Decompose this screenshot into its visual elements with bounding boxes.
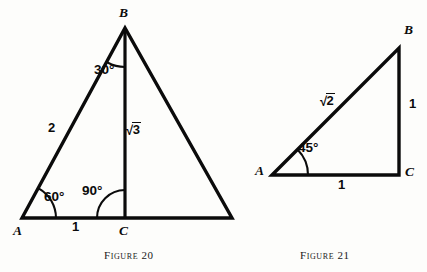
figure-20-angle-label-b: 30° [94,63,114,77]
figure-21-geometry [272,48,399,175]
figure-21-triangle-outline [272,48,399,175]
figure-20-vertex-label-c: C [119,224,128,238]
radical-radicand: 2 [326,93,335,107]
figure-20-caption: Figure 20 [104,249,154,261]
geometry-drawing-layer [0,0,427,272]
figure-20-angle-label-a: 60° [44,190,64,204]
figure-page: B A C 2 √3 1 30° 60° 90° Figure 20 B A C… [0,0,427,272]
figure-21-hypotenuse-label-sqrt2: √2 [320,94,335,108]
figure-21-leg-label-bc: 1 [409,97,416,110]
figure-21-angle-label-a: 45° [298,141,318,155]
figure-21-vertex-label-b: B [404,23,413,37]
figure-20-vertex-label-a: A [13,224,22,238]
figure-20-base-label-ac: 1 [72,220,79,233]
figure-21-leg-label-ac: 1 [338,178,345,191]
figure-21-vertex-label-a: A [255,164,264,178]
figure-21-vertex-label-c: C [405,165,414,179]
figure-20-angle-label-c: 90° [82,184,102,198]
radical-radicand: 3 [132,122,141,136]
figure-20-side-label-ab: 2 [48,121,55,134]
figure-20-vertex-label-b: B [119,6,128,20]
figure-21-caption: Figure 21 [300,249,350,261]
figure-20-altitude-label-sqrt3: √3 [126,123,141,137]
